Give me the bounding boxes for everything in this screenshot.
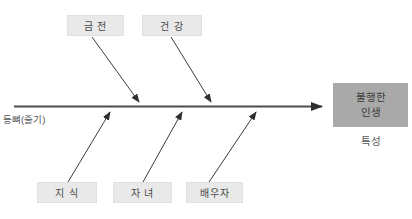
cause-box-health: 건 강 — [142, 15, 202, 36]
cause-box-knowledge: 지 식 — [37, 182, 97, 203]
cause-arrow-knowledge — [68, 112, 110, 182]
effect-box: 불행한 인생 — [333, 83, 408, 127]
cause-arrow-children — [143, 112, 182, 182]
spine-label: 등뼈(줄기) — [3, 112, 45, 126]
cause-box-children: 자 녀 — [113, 182, 172, 203]
cause-arrow-money — [92, 37, 139, 102]
fishbone-diagram: 금 전 건 강 지 식 자 녀 배우자 등뼈(줄기) 불행한 인생 특성 — [0, 0, 412, 219]
effect-label-line2: 인생 — [361, 105, 381, 120]
effect-label-line1: 불행한 — [356, 90, 386, 105]
cause-box-spouse: 배우자 — [186, 182, 243, 203]
effect-caption: 특성 — [333, 133, 408, 148]
cause-arrow-health — [171, 37, 211, 102]
cause-box-money: 금 전 — [67, 15, 124, 36]
cause-arrow-spouse — [209, 112, 256, 182]
